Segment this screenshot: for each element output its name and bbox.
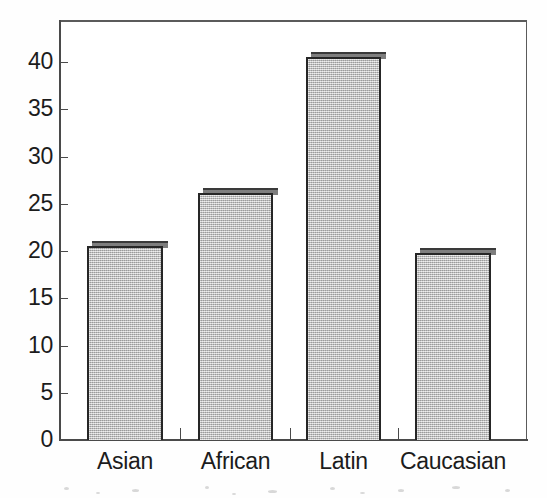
y-axis-tick [59,109,68,110]
y-axis-tick-label: 15 [7,286,53,309]
scan-speckle [205,486,209,489]
y-axis-tick-label: 5 [7,381,53,404]
bar-caucasian [415,253,491,440]
bar-chart-figure: 0510152025303540 AsianAfricanLatinCaucas… [0,0,547,498]
bar-latin [306,57,381,440]
scan-speckle [96,492,100,494]
y-axis-tick [59,157,68,158]
y-axis-tick [59,251,68,252]
scan-speckle [505,489,510,492]
y-axis-tick-label: 40 [7,50,53,73]
x-axis-tick [398,428,399,440]
scan-speckle [268,490,277,493]
x-axis-tick [290,428,291,440]
y-axis-labels: 0510152025303540 [0,0,53,498]
y-axis-tick-label: 10 [7,334,53,357]
scan-speckle [330,487,335,490]
scan-speckle [452,486,460,489]
y-axis-tick-label: 20 [7,239,53,262]
y-axis-tick-label: 25 [7,192,53,215]
y-axis-tick [59,62,68,63]
y-axis-tick-label: 0 [7,428,53,451]
y-axis-tick-label: 35 [7,97,53,120]
y-axis-tick [59,298,68,299]
bar-african [198,193,273,440]
scan-speckle [64,487,69,490]
y-axis-line [59,20,61,441]
scan-speckle [232,493,236,495]
x-axis-label-caucasian: Caucasian [373,450,533,473]
y-axis-tick [59,204,68,205]
scan-speckle [360,492,365,494]
bar-asian [87,246,163,440]
y-axis-tick-label: 30 [7,145,53,168]
scan-speckle [398,489,404,492]
scan-speckle [132,489,139,492]
y-axis-tick [59,393,68,394]
y-axis-tick [59,346,68,347]
x-axis-tick [180,428,181,440]
